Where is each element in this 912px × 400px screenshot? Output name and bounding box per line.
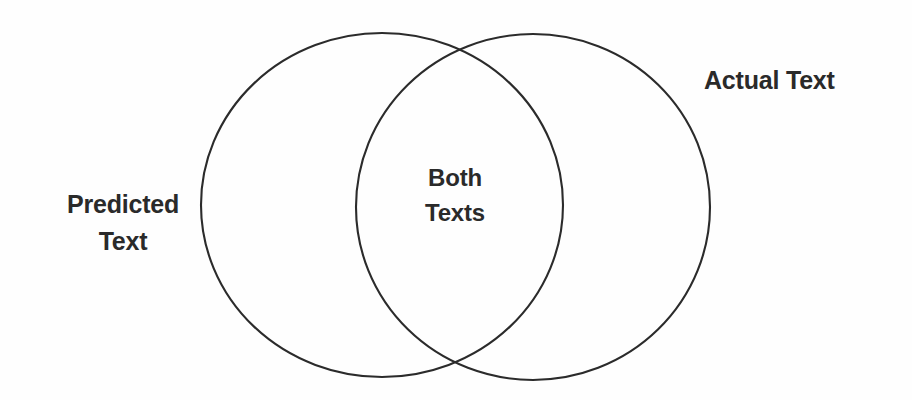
both-texts-intersection-label: Both Texts: [385, 160, 525, 230]
actual-text-set-label: Actual Text: [704, 62, 900, 99]
venn-diagram-canvas: Predicted Text Actual Text Both Texts: [0, 0, 912, 400]
predicted-text-set-label: Predicted Text: [12, 186, 234, 260]
